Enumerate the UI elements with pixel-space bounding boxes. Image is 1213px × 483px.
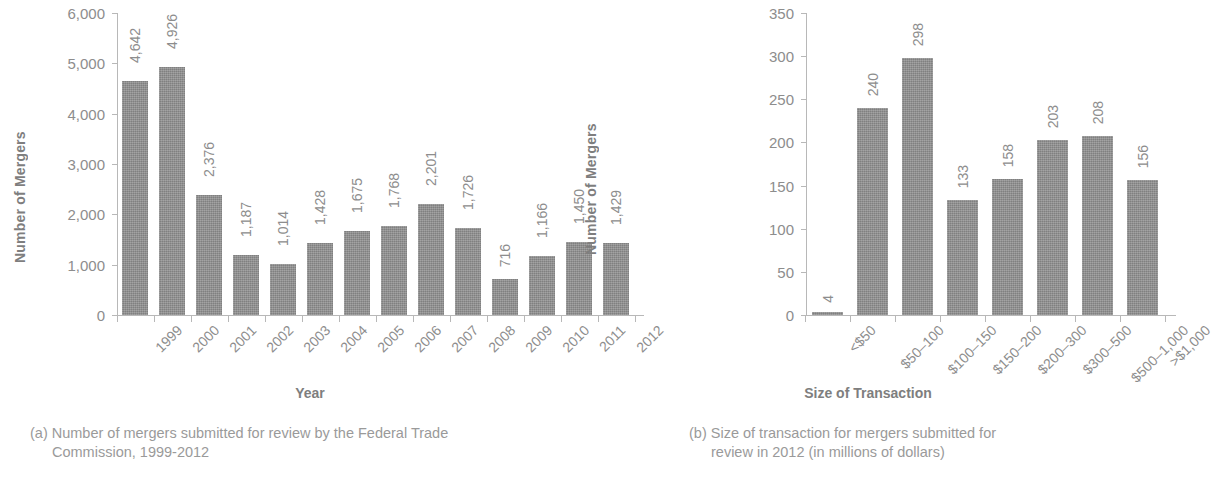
panel_a-bar [529,256,555,315]
panel_a-bar [196,195,222,315]
panel_b-x-tick [985,316,986,322]
panel_b-bar [1127,180,1158,315]
panel_a-y-tick-label: 2,000 [67,206,105,223]
panel_a-bar [122,81,148,315]
panel_b-bar [992,179,1023,315]
panel_a-bar [455,228,481,315]
panel_b-y-tick [801,13,807,14]
panel_a-y-tick [112,63,118,64]
panel_a-bar-value-label: 4,642 [127,28,143,63]
panel_b-x-tick [1120,316,1121,322]
panel-a-caption-line1: (a) Number of mergers submitted for revi… [30,425,448,441]
panel-a-caption-line2: Commission, 1999-2012 [30,443,550,462]
panel-b-caption-line1: (b) Size of transaction for mergers subm… [689,425,996,441]
panel_a-x-tick [524,316,525,322]
panel_b-bar [902,58,933,315]
panel_a-y-tick [112,214,118,215]
panel_a-x-tick-label: 2006 [411,322,444,355]
panel_a-bar-value-label: 1,187 [238,202,254,237]
panel_b-bar-value-label: 133 [955,165,971,188]
panel_a-x-tick-label: 2000 [189,322,222,355]
panel_b-bar-value-label: 158 [1000,144,1016,167]
panel_a-bar-value-label: 2,201 [423,151,439,186]
panel_a-x-tick [191,316,192,322]
panel-b-size-of-transaction: Number of Mergers 0501001502002503003504… [573,0,1146,483]
panel_b-y-tick [801,142,807,143]
panel-a-plot-area: 01,0002,0003,0004,0005,0006,0004,6421999… [0,0,573,340]
panel_a-y-tick [112,164,118,165]
panel-a-x-axis-title: Year [175,385,445,401]
panel_a-x-tick [487,316,488,322]
panel_b-y-tick-label: 0 [786,307,794,324]
panel_a-x-tick [339,316,340,322]
panel_a-y-tick-label: 1,000 [67,257,105,274]
panel_b-y-tick-label: 350 [769,5,794,22]
panel_b-bar [857,108,888,315]
panel_b-y-axis-line [806,13,807,315]
panel-b-plot-area: 0501001502002503003504<$50240$50–100298$… [573,0,1146,340]
panel_a-x-tick [265,316,266,322]
panel_a-x-tick [117,316,118,322]
panel_a-x-tick [302,316,303,322]
panel_b-bar-value-label: 156 [1135,145,1151,168]
panel_a-bar [307,243,333,315]
panel_b-y-tick-label: 50 [777,264,794,281]
panel_a-bar-value-label: 1,726 [460,175,476,210]
panel_a-bar-value-label: 2,376 [201,142,217,177]
panel_a-bar-value-label: 1,014 [275,211,291,246]
panel_a-x-tick-label: 2004 [337,322,370,355]
panel_b-y-tick [801,229,807,230]
panel_a-x-tick-label: 2001 [226,322,259,355]
panel_b-x-tick [850,316,851,322]
panel_a-bar [381,226,407,315]
panel_a-y-tick-label: 4,000 [67,106,105,123]
panel_b-bar [947,200,978,315]
panel_a-y-tick-label: 0 [97,307,105,324]
panel_b-y-tick-label: 100 [769,221,794,238]
panel_a-bar [492,279,518,315]
panel-b-x-axis-title: Size of Transaction [703,385,1033,401]
panel_a-bar [418,204,444,315]
panel_b-x-tick [895,316,896,322]
panel_a-y-tick [112,13,118,14]
panel_a-bar [344,231,370,315]
panel_b-y-tick-label: 200 [769,134,794,151]
panel_b-bar [812,312,843,315]
panel_b-bar-value-label: 4 [820,295,836,303]
panel_a-y-tick-label: 5,000 [67,55,105,72]
panel_a-bar-value-label: 4,926 [164,14,180,49]
panel_b-y-tick [801,186,807,187]
panel_a-bar [270,264,296,315]
panel_b-bar [1037,140,1068,315]
panel_a-x-tick [561,316,562,322]
panel_a-x-tick-label: 2009 [522,322,555,355]
panel_b-x-tick [1075,316,1076,322]
panel_b-bar-value-label: 240 [865,73,881,96]
panel_a-bar-value-label: 1,768 [386,173,402,208]
panel_a-y-tick-label: 6,000 [67,5,105,22]
panel_a-bar-value-label: 1,428 [312,190,328,225]
panel_b-bar-value-label: 203 [1045,105,1061,128]
panel_a-x-tick [450,316,451,322]
panel_b-bar [1082,136,1113,315]
panel_a-x-tick-label: 2008 [485,322,518,355]
panel_b-x-tick [940,316,941,322]
panel_b-y-tick-label: 300 [769,48,794,65]
panel-a-number-of-mergers-by-year: Number of Mergers 01,0002,0003,0004,0005… [0,0,573,483]
panel_b-x-tick [1030,316,1031,322]
panel-b-caption: (b) Size of transaction for mergers subm… [689,424,1129,462]
panel_b-y-tick-label: 150 [769,178,794,195]
panel_b-y-tick [801,99,807,100]
panel_a-x-tick-label: 2005 [374,322,407,355]
panel_b-bar-value-label: 208 [1090,101,1106,124]
panel_b-x-tick [805,316,806,322]
panel_a-x-tick [228,316,229,322]
panel_a-x-tick [376,316,377,322]
panel_b-bar-value-label: 298 [910,23,926,46]
panel_a-x-tick-label: 1999 [152,322,185,355]
panel_a-y-tick [112,114,118,115]
panel_a-x-tick [154,316,155,322]
panel-b-caption-line2: review in 2012 (in millions of dollars) [689,443,1129,462]
panel_a-x-tick-label: 2002 [263,322,296,355]
